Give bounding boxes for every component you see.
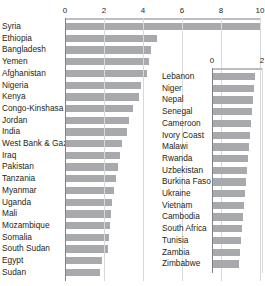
bar bbox=[213, 167, 247, 174]
bar bbox=[213, 225, 242, 232]
bar bbox=[66, 105, 133, 112]
chart-row: Sudan bbox=[0, 268, 160, 280]
axis-zero-line bbox=[65, 18, 66, 281]
bar bbox=[213, 96, 253, 103]
bar bbox=[66, 175, 116, 182]
bar bbox=[66, 234, 109, 241]
category-label: Egypt bbox=[2, 256, 64, 265]
category-label: Somalia bbox=[2, 233, 64, 242]
chart-row: Syria bbox=[0, 22, 160, 34]
category-label: Malawi bbox=[162, 142, 210, 151]
bar bbox=[66, 117, 129, 124]
category-label: Tanzania bbox=[2, 174, 64, 183]
category-label: Burkina Faso bbox=[162, 177, 210, 186]
chart-row: Myanmar bbox=[0, 186, 160, 198]
chart-row: West Bank & Gaza bbox=[0, 139, 160, 151]
category-label: Uzbekistan bbox=[162, 166, 210, 175]
category-label: Sudan bbox=[2, 268, 64, 277]
category-label: Mozambique bbox=[2, 221, 64, 230]
bar bbox=[66, 58, 149, 65]
bar bbox=[66, 245, 108, 252]
category-label: Lebanon bbox=[162, 72, 210, 81]
right-chart-plot-area: LebanonNigerNepalSenegalCameroonIvory Co… bbox=[160, 68, 265, 273]
category-label: Vietnam bbox=[162, 201, 210, 210]
axis-tick-label: 0 bbox=[63, 6, 67, 15]
bar bbox=[213, 190, 245, 197]
axis-tick-label: 2 bbox=[260, 56, 264, 65]
axis-tick-label: 8 bbox=[219, 6, 223, 15]
category-label: Bangladesh bbox=[2, 45, 64, 54]
bar bbox=[66, 23, 260, 30]
category-label: Kenya bbox=[2, 92, 64, 101]
bar bbox=[213, 202, 244, 209]
category-label: South Sudan bbox=[2, 244, 64, 253]
bar bbox=[66, 128, 127, 135]
chart-figure: 0246810 SyriaEthiopiaBangladeshYemenAfgh… bbox=[0, 0, 265, 286]
axis-tick-label: 0 bbox=[210, 56, 214, 65]
category-label: Rwanda bbox=[162, 154, 210, 163]
left-chart-plot-area: SyriaEthiopiaBangladeshYemenAfghanistanN… bbox=[0, 18, 160, 281]
bar bbox=[213, 108, 252, 115]
category-label: Uganda bbox=[2, 198, 64, 207]
chart-row: Mozambique bbox=[0, 221, 160, 233]
category-label: Ethiopia bbox=[2, 34, 64, 43]
axis-tick-label: 10 bbox=[256, 6, 265, 15]
category-label: Zimbabwe bbox=[162, 259, 210, 268]
right-chart-axis-tick-labels: 02 bbox=[160, 56, 265, 68]
bar bbox=[213, 143, 249, 150]
category-label: Pakistan bbox=[2, 162, 64, 171]
category-label: Syria bbox=[2, 22, 64, 31]
category-label: Jordan bbox=[2, 116, 64, 125]
category-label: India bbox=[2, 127, 64, 136]
bar bbox=[213, 213, 243, 220]
category-label: Niger bbox=[162, 84, 210, 93]
axis-tick-label: 6 bbox=[180, 6, 184, 15]
category-label: Ivory Coast bbox=[162, 131, 210, 140]
category-label: Cambodia bbox=[162, 212, 210, 221]
bar bbox=[66, 140, 122, 147]
bar bbox=[213, 237, 241, 244]
left-chart-rows: SyriaEthiopiaBangladeshYemenAfghanistanN… bbox=[0, 18, 160, 281]
category-label: Yemen bbox=[2, 57, 64, 66]
category-label: Afghanistan bbox=[2, 69, 64, 78]
category-label: Nigeria bbox=[2, 81, 64, 90]
bar bbox=[66, 187, 114, 194]
bar bbox=[66, 152, 120, 159]
category-label: Cameroon bbox=[162, 119, 210, 128]
bar bbox=[213, 155, 248, 162]
bar bbox=[66, 46, 151, 53]
bar bbox=[66, 93, 139, 100]
bar bbox=[213, 85, 254, 92]
axis-tick-label: 2 bbox=[102, 6, 106, 15]
bar bbox=[66, 257, 102, 264]
bar bbox=[66, 269, 100, 276]
chart-row: Egypt bbox=[0, 256, 160, 268]
chart-row: Uganda bbox=[0, 198, 160, 210]
category-label: Iraq bbox=[2, 151, 64, 160]
category-label: South Africa bbox=[162, 224, 210, 233]
bar bbox=[66, 70, 147, 77]
category-label: Nepal bbox=[162, 95, 210, 104]
category-label: West Bank & Gaza bbox=[2, 139, 64, 148]
category-label: Ukraine bbox=[162, 189, 210, 198]
category-label: Tunisia bbox=[162, 236, 210, 245]
category-label: Mali bbox=[2, 209, 64, 218]
category-label: Congo-Kinshasa bbox=[2, 104, 64, 113]
chart-row: South Sudan bbox=[0, 244, 160, 256]
gridline bbox=[262, 68, 263, 273]
chart-row: Jordan bbox=[0, 116, 160, 128]
bar bbox=[213, 249, 240, 256]
chart-row: Congo-Kinshasa bbox=[0, 104, 160, 116]
gridline bbox=[104, 18, 105, 281]
bar bbox=[213, 120, 251, 127]
bar bbox=[213, 73, 255, 80]
left-chart-axis-tick-labels: 0246810 bbox=[0, 6, 160, 18]
bar bbox=[213, 260, 239, 267]
category-label: Zambia bbox=[162, 248, 210, 257]
category-label: Senegal bbox=[162, 107, 210, 116]
bar bbox=[66, 163, 118, 170]
gridline bbox=[143, 18, 144, 281]
bar bbox=[213, 132, 250, 139]
axis-zero-line bbox=[212, 68, 213, 273]
category-label: Myanmar bbox=[2, 186, 64, 195]
